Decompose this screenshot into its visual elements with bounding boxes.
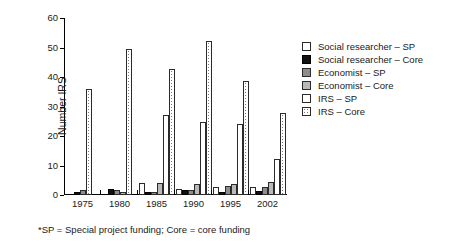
- legend-swatch-icon: [302, 68, 311, 77]
- x-tick-label: 1980: [109, 198, 130, 209]
- y-tick-label: 10: [24, 161, 64, 171]
- bar-group: [175, 18, 212, 195]
- bar-group: [138, 18, 175, 195]
- bar-group: [212, 18, 249, 195]
- chart-legend: Social researcher – SPSocial researcher …: [302, 42, 423, 117]
- bar-irs-core: [126, 49, 132, 195]
- legend-swatch-icon: [302, 42, 311, 51]
- legend-label: Economist – Core: [318, 81, 394, 91]
- legend-label: Social researcher – SP: [318, 42, 415, 52]
- legend-item: IRS – SP: [302, 94, 423, 104]
- legend-item: Economist – Core: [302, 81, 423, 91]
- y-tick-label: 50: [24, 43, 64, 53]
- bar-irs-core: [280, 113, 286, 195]
- x-tick-label: 1995: [220, 198, 241, 209]
- legend-item: Economist – SP: [302, 68, 423, 78]
- bar-group: [101, 18, 138, 195]
- bar-irs-core: [86, 89, 92, 195]
- x-tick-label: 1985: [146, 198, 167, 209]
- legend-label: Economist – SP: [318, 68, 386, 78]
- legend-item: IRS – Core: [302, 107, 423, 117]
- y-tick-label: 0: [24, 190, 64, 200]
- x-tick-label: 1990: [183, 198, 204, 209]
- legend-label: IRS – Core: [318, 107, 365, 117]
- legend-label: IRS – SP: [318, 94, 357, 104]
- chart-footnote: *SP = Special project funding; Core = co…: [38, 224, 250, 235]
- bar-group: [249, 18, 286, 195]
- chart-figure: Number IRS 0102030405060 197519801985199…: [0, 0, 454, 242]
- legend-label: Social researcher – Core: [318, 55, 423, 65]
- y-tick-label: 60: [24, 13, 64, 23]
- legend-swatch-icon: [302, 107, 311, 116]
- bar-irs-core: [243, 81, 249, 195]
- legend-swatch-icon: [302, 81, 311, 90]
- bar-irs-core: [206, 41, 212, 195]
- y-tick-label: 30: [24, 102, 64, 112]
- bar-group: [64, 18, 101, 195]
- bar-irs-core: [169, 69, 175, 195]
- x-tick-label: 1975: [72, 198, 93, 209]
- legend-item: Social researcher – Core: [302, 55, 423, 65]
- y-tick-label: 20: [24, 131, 64, 141]
- y-tick-mark: [60, 195, 64, 196]
- legend-item: Social researcher – SP: [302, 42, 423, 52]
- bar-groups: [64, 18, 286, 195]
- legend-swatch-icon: [302, 94, 311, 103]
- y-tick-label: 40: [24, 72, 64, 82]
- x-tick-label: 2002: [257, 198, 278, 209]
- plot-area: Number IRS 0102030405060: [64, 18, 286, 195]
- legend-swatch-icon: [302, 55, 311, 64]
